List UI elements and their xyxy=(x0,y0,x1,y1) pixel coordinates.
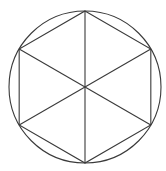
hexagon-in-circle-diagram xyxy=(0,0,166,171)
